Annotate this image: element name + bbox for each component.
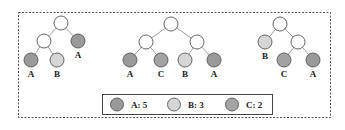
tree-node-a <box>207 53 221 67</box>
tree-node-empty <box>190 35 204 49</box>
node-label: A <box>75 50 82 60</box>
node-label: A <box>127 69 134 79</box>
tree-node-empty <box>37 34 51 48</box>
tree-node-c <box>154 53 168 67</box>
node-label: A <box>310 69 317 79</box>
tree-3: BCA <box>258 17 320 79</box>
tree-node-a <box>123 53 137 67</box>
tree-node-empty <box>291 35 305 49</box>
tree-node-empty <box>164 17 178 31</box>
tree-node-b <box>258 35 272 49</box>
tree-node-a <box>24 53 38 67</box>
tree-node-a <box>306 53 320 67</box>
tree-node-b <box>178 53 192 67</box>
tree-1: AAB <box>24 16 85 79</box>
tree-node-empty <box>139 35 153 49</box>
node-label: B <box>262 51 268 61</box>
legend-swatch-c <box>226 98 239 111</box>
tree-node-empty <box>54 16 68 30</box>
tree-node-empty <box>273 17 287 31</box>
legend-label-c: C: 2 <box>246 100 263 110</box>
tree-2: ACBA <box>123 17 221 79</box>
legend-swatch-b <box>168 98 181 111</box>
legend: A: 5B: 3C: 2 <box>103 95 273 115</box>
legend-label-b: B: 3 <box>188 100 204 110</box>
node-label: C <box>158 69 165 79</box>
tree-node-a <box>71 34 85 48</box>
legend-swatch-a <box>111 98 124 111</box>
node-label: A <box>28 69 35 79</box>
tree-node-b <box>50 53 64 67</box>
node-label: A <box>211 69 218 79</box>
tree-diagram: AABACBABCA A: 5B: 3C: 2 <box>0 0 345 130</box>
node-label: B <box>54 69 60 79</box>
trees-group: AABACBABCA <box>24 16 320 79</box>
tree-node-c <box>277 53 291 67</box>
legend-label-a: A: 5 <box>131 100 148 110</box>
node-label: C <box>281 69 288 79</box>
node-label: B <box>182 69 188 79</box>
